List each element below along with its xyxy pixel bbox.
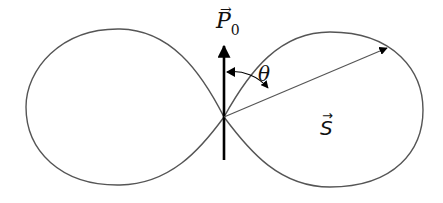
theta-arc-start-arrowhead <box>226 67 235 77</box>
angle-label: θ <box>258 64 270 84</box>
vector-arrow-icon: → <box>220 2 232 16</box>
poynting-vector-arrow <box>224 48 387 117</box>
dipole-subscript: 0 <box>231 22 240 38</box>
vector-arrow-icon: → <box>322 109 333 122</box>
dipole-moment-label: →P0 <box>216 10 240 35</box>
poynting-vector-label: →S <box>320 118 333 138</box>
left-radiation-lobe <box>26 29 224 185</box>
